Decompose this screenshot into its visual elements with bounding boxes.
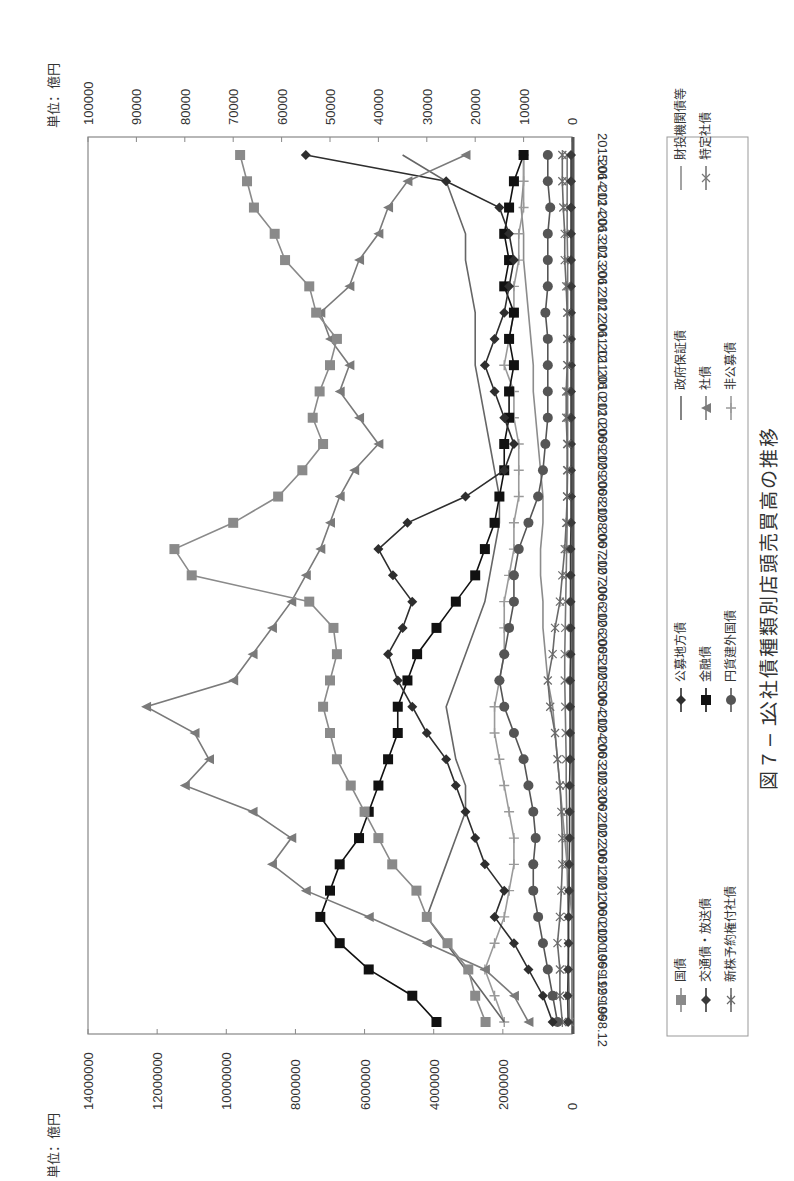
left-axis-tick-label: 0 xyxy=(565,1103,580,1110)
legend-label: 公募地方債 xyxy=(673,622,688,682)
right-axis-tick-label: 20000 xyxy=(468,89,483,125)
right-axis-tick-label: 30000 xyxy=(420,89,435,125)
right-axis-tick-label: 40000 xyxy=(371,89,386,125)
left-axis-tick-label: 12000000 xyxy=(150,1052,165,1110)
legend-label: 政府保証債 xyxy=(673,330,688,390)
legend-label: 社債 xyxy=(698,366,713,390)
right-axis-tick-label: 100000 xyxy=(81,82,96,125)
chart: 0200000040000006000000800000010000000120… xyxy=(0,0,794,1181)
right-axis-tick-label: 0 xyxy=(565,118,580,125)
left-axis-unit-label: 単位：億円 xyxy=(46,1113,61,1178)
right-axis-tick-label: 50000 xyxy=(323,89,338,125)
left-axis-tick-label: 14000000 xyxy=(81,1052,96,1110)
left-axis-tick-label: 4000000 xyxy=(427,1059,442,1110)
legend-label: 非公募債 xyxy=(723,342,738,390)
figure-caption-number: 図７−１ xyxy=(758,709,780,790)
legend-label: 国債 xyxy=(673,958,688,982)
right-axis-tick-label: 10000 xyxy=(517,89,532,125)
left-axis-tick-label: 8000000 xyxy=(288,1059,303,1110)
right-axis-tick-label: 80000 xyxy=(178,89,193,125)
left-axis: 0200000040000006000000800000010000000120… xyxy=(81,1029,580,1110)
right-axis-tick-label: 90000 xyxy=(129,89,144,125)
right-axis: 0100002000030000400005000060000700008000… xyxy=(81,82,580,142)
legend-label: 新株予約権付社債 xyxy=(723,886,738,982)
left-axis-tick-label: 2000000 xyxy=(496,1059,511,1110)
x-axis-tick-label: 2015.06 xyxy=(595,133,610,180)
legend-label: 財投機関債等 xyxy=(673,88,688,160)
legend-label: 交通債・放送債 xyxy=(698,898,713,982)
plot-area xyxy=(88,137,572,1034)
left-axis-tick-label: 6000000 xyxy=(358,1059,373,1110)
right-axis-tick-label: 60000 xyxy=(275,89,290,125)
left-axis-tick-label: 10000000 xyxy=(219,1052,234,1110)
right-axis-tick-label: 70000 xyxy=(226,89,241,125)
legend-label: 円貨建外国債 xyxy=(723,610,738,682)
x-axis: 1998.121999.061999.122000.062000.122001.… xyxy=(573,133,610,1047)
legend-label: 金融債 xyxy=(698,646,713,682)
right-axis-unit-label: 単位：億円 xyxy=(46,63,61,128)
legend-label: 特定社債 xyxy=(698,112,713,160)
figure-caption-title: 公社債種類別店頭売買高の推移 xyxy=(758,426,780,720)
